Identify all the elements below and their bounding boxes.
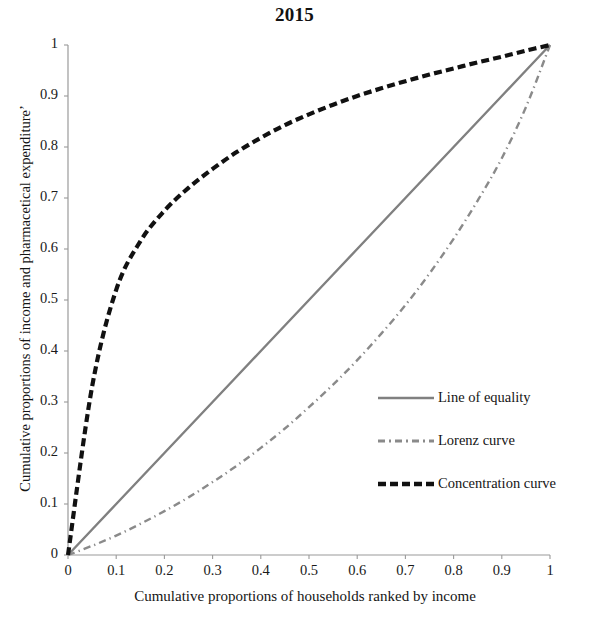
legend-swatch-dashed-icon — [378, 478, 434, 490]
legend-label-concentration-curve: Concentration curve — [438, 475, 556, 492]
lorenz-concentration-chart: 2015 Cumulative proportions of income an… — [0, 0, 589, 620]
legend-swatch-solid-icon — [378, 392, 434, 404]
legend-swatch-dashdot-icon — [378, 435, 434, 447]
legend-item-lorenz-curve: Lorenz curve — [378, 419, 583, 462]
plot-area — [0, 0, 589, 620]
legend-label-line-of-equality: Line of equality — [438, 389, 531, 406]
chart-legend: Line of equality Lorenz curve Concentrat… — [378, 376, 583, 505]
legend-label-lorenz-curve: Lorenz curve — [438, 432, 515, 449]
legend-item-line-of-equality: Line of equality — [378, 376, 583, 419]
legend-item-concentration-curve: Concentration curve — [378, 462, 583, 505]
